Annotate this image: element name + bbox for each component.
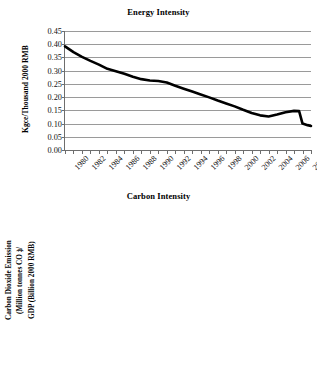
x-tick-mark	[311, 150, 312, 154]
x-tick-label: 1980	[73, 154, 91, 172]
x-tick-mark	[201, 150, 202, 154]
chart-panel-carbon-intensity: Carbon Intensity 00.20.40.60.811.2198019…	[0, 186, 317, 371]
x-tick-mark	[218, 150, 219, 154]
x-tick-label: 1988	[141, 154, 159, 172]
x-tick-mark	[73, 150, 74, 154]
x-tick-label: 2004	[276, 154, 294, 172]
x-tick-label: 2006	[293, 154, 311, 172]
y-tick-label: 0.30	[47, 66, 62, 75]
x-tick-mark	[269, 150, 270, 154]
x-tick-label: 1992	[175, 154, 193, 172]
x-tick-label: 2002	[259, 154, 277, 172]
gridline	[65, 150, 311, 151]
y-axis-label-carbon-line2: (Million tonnes CO2)/	[14, 210, 26, 350]
x-tick-label: 1994	[191, 154, 209, 172]
chart-panel-energy-intensity: Energy Intensity Kgce/Thousand 2000 RMB …	[0, 0, 317, 190]
y-axis-label-carbon-intensity: Carbon Dioxide Emission (Million tonnes …	[3, 210, 37, 350]
y-axis-label-energy-intensity: Kgce/Thousand 2000 RMB	[21, 26, 30, 152]
x-tick-mark	[82, 150, 83, 154]
x-tick-mark	[158, 150, 159, 154]
x-tick-mark	[150, 150, 151, 154]
x-tick-mark	[141, 150, 142, 154]
x-tick-mark	[226, 150, 227, 154]
x-tick-mark	[235, 150, 236, 154]
y-tick-label: 0.15	[47, 106, 62, 115]
chart-title-carbon-intensity: Carbon Intensity	[0, 191, 317, 201]
x-tick-mark	[209, 150, 210, 154]
y-axis-label-carbon-line1: Carbon Dioxide Emission	[3, 210, 14, 350]
y-tick-label: 0.25	[47, 79, 62, 88]
x-tick-mark	[303, 150, 304, 154]
x-tick-mark	[243, 150, 244, 154]
x-tick-mark	[260, 150, 261, 154]
figure-two-line-charts: Energy Intensity Kgce/Thousand 2000 RMB …	[0, 0, 317, 371]
x-tick-mark	[99, 150, 100, 154]
x-tick-mark	[192, 150, 193, 154]
x-tick-mark	[116, 150, 117, 154]
x-tick-label: 2008	[310, 154, 317, 172]
plot-area-energy-intensity: 0.000.050.100.150.200.250.300.350.400.45…	[64, 31, 311, 150]
y-tick-label: 0.35	[47, 53, 62, 62]
x-tick-mark	[184, 150, 185, 154]
x-tick-mark	[175, 150, 176, 154]
x-tick-mark	[107, 150, 108, 154]
x-tick-label: 1996	[208, 154, 226, 172]
data-series-line	[65, 31, 311, 150]
y-tick-label: 0.00	[47, 146, 62, 155]
y-tick-label: 0.20	[47, 93, 62, 102]
x-tick-mark	[133, 150, 134, 154]
x-tick-mark	[124, 150, 125, 154]
x-tick-mark	[65, 150, 66, 154]
x-tick-label: 1990	[158, 154, 176, 172]
x-tick-label: 1984	[107, 154, 125, 172]
x-tick-mark	[90, 150, 91, 154]
y-tick-label: 0.45	[47, 27, 62, 36]
y-tick-label: 0.10	[47, 119, 62, 128]
x-tick-mark	[286, 150, 287, 154]
x-tick-label: 1986	[124, 154, 142, 172]
x-tick-mark	[277, 150, 278, 154]
y-tick-label: 0.40	[47, 40, 62, 49]
x-tick-mark	[167, 150, 168, 154]
x-tick-label: 1998	[225, 154, 243, 172]
y-tick-label: 0.05	[47, 132, 62, 141]
x-tick-mark	[294, 150, 295, 154]
x-tick-label: 1982	[90, 154, 108, 172]
x-tick-mark	[252, 150, 253, 154]
chart-title-energy-intensity: Energy Intensity	[0, 7, 317, 17]
x-tick-label: 2000	[242, 154, 260, 172]
y-axis-label-carbon-line3: GDP (Billion 2000 RMB)	[26, 210, 37, 350]
